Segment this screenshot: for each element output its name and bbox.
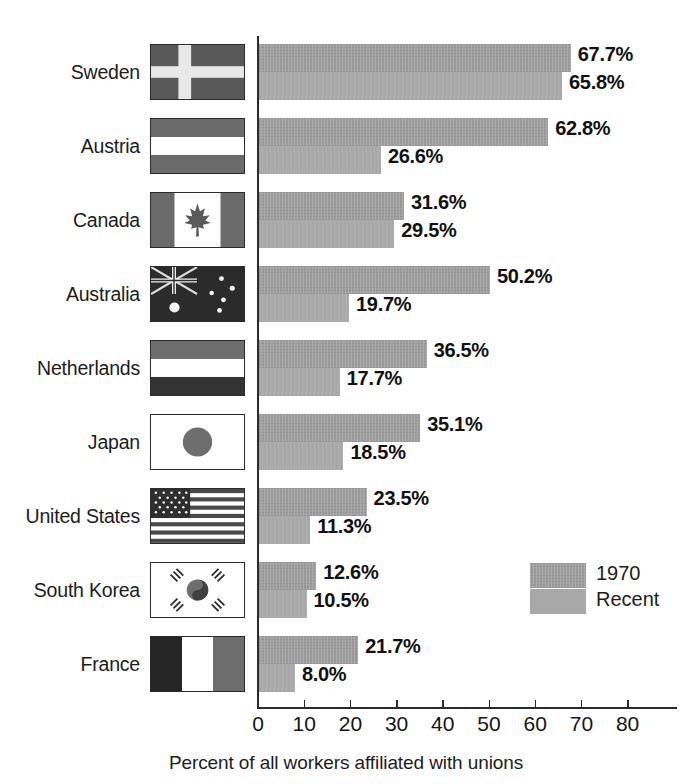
axis-tick-label: 60	[524, 712, 547, 736]
flag-japan-icon	[150, 414, 245, 470]
axis-tick	[442, 700, 444, 708]
axis-tick-label: 70	[570, 712, 593, 736]
bar-pair: 23.5%11.3%	[258, 488, 688, 544]
flag-france-icon	[150, 636, 245, 692]
axis-tick-label: 0	[252, 712, 264, 736]
axis-tick	[304, 700, 306, 708]
axis-tick	[489, 700, 491, 708]
axis-tick	[258, 700, 260, 708]
chart-row: France 21.7%8.0%	[0, 630, 692, 698]
bar-value-recent: 29.5%	[401, 219, 456, 242]
bar-pair: 62.8%26.6%	[258, 118, 688, 174]
bar-1970	[258, 562, 316, 590]
axis-tick-label: 10	[293, 712, 316, 736]
bar-recent	[258, 220, 394, 248]
country-label: United States	[0, 505, 140, 528]
bar-recent	[258, 516, 310, 544]
bar-recent	[258, 664, 295, 692]
x-axis-label: Percent of all workers affiliated with u…	[0, 752, 692, 774]
bar-value-recent: 11.3%	[317, 515, 371, 538]
chart-row: Australia 50.2%19.7%	[0, 260, 692, 328]
country-label: Australia	[0, 283, 140, 306]
chart-row: Japan 35.1%18.5%	[0, 408, 692, 476]
axis-tick-label: 50	[477, 712, 500, 736]
legend-label: 1970	[596, 562, 641, 585]
bar-1970	[258, 44, 571, 72]
bar-pair: 50.2%19.7%	[258, 266, 688, 322]
axis-tick	[396, 700, 398, 708]
bar-value-recent: 18.5%	[350, 441, 405, 464]
bar-value-recent: 65.8%	[569, 71, 624, 94]
chart-row: South Korea 12.6%10.5%	[0, 556, 692, 624]
bar-value-recent: 17.7%	[347, 367, 402, 390]
bar-recent	[258, 146, 381, 174]
bar-1970	[258, 192, 404, 220]
flag-netherlands-icon	[150, 340, 245, 396]
country-label: South Korea	[0, 579, 140, 602]
bar-recent	[258, 72, 562, 100]
axis-horizontal-line	[257, 707, 677, 709]
bar-recent	[258, 368, 340, 396]
bar-value-1970: 31.6%	[411, 191, 466, 214]
bar-value-1970: 36.5%	[434, 339, 489, 362]
bar-value-1970: 21.7%	[365, 635, 420, 658]
bar-value-1970: 62.8%	[555, 117, 610, 140]
bar-1970	[258, 414, 420, 442]
bar-recent	[258, 590, 307, 618]
axis-tick	[350, 700, 352, 708]
bar-value-recent: 19.7%	[356, 293, 411, 316]
bar-1970	[258, 118, 548, 146]
chart-row: Netherlands 36.5%17.7%	[0, 334, 692, 402]
bar-1970	[258, 636, 358, 664]
legend-swatch	[530, 563, 586, 588]
flag-united-states-icon	[150, 488, 245, 544]
flag-austria-icon	[150, 118, 245, 174]
flag-australia-icon	[150, 266, 245, 322]
bar-value-recent: 26.6%	[388, 145, 443, 168]
axis-tick	[581, 700, 583, 708]
bar-pair: 35.1%18.5%	[258, 414, 688, 470]
bar-value-1970: 50.2%	[497, 265, 552, 288]
union-membership-bar-chart: Sweden 67.7%65.8%Austria 62.8%26.6%Canad…	[0, 0, 692, 784]
chart-row: Austria 62.8%26.6%	[0, 112, 692, 180]
axis-tick	[535, 700, 537, 708]
legend-label: Recent	[596, 588, 659, 611]
axis-tick-label: 20	[339, 712, 362, 736]
bar-1970	[258, 488, 367, 516]
bar-pair: 36.5%17.7%	[258, 340, 688, 396]
country-label: Canada	[0, 209, 140, 232]
chart-row: Canada 31.6%29.5%	[0, 186, 692, 254]
bar-recent	[258, 294, 349, 322]
bar-value-1970: 35.1%	[427, 413, 482, 436]
bar-value-1970: 12.6%	[323, 561, 378, 584]
bar-value-1970: 23.5%	[374, 487, 429, 510]
bar-recent	[258, 442, 343, 470]
country-label: Sweden	[0, 61, 140, 84]
country-label: France	[0, 653, 140, 676]
bar-1970	[258, 340, 427, 368]
flag-south-korea-icon	[150, 562, 245, 618]
bar-1970	[258, 266, 490, 294]
axis-tick-label: 80	[616, 712, 639, 736]
axis-tick-label: 40	[431, 712, 454, 736]
chart-row: Sweden 67.7%65.8%	[0, 38, 692, 106]
chart-row: United States	[0, 482, 692, 550]
legend-swatch	[530, 589, 586, 614]
axis-tick	[627, 700, 629, 708]
country-label: Austria	[0, 135, 140, 158]
country-label: Netherlands	[0, 357, 140, 380]
flag-canada-icon	[150, 192, 245, 248]
bar-pair: 67.7%65.8%	[258, 44, 688, 100]
bar-value-recent: 8.0%	[302, 663, 346, 686]
flag-sweden-icon	[150, 44, 245, 100]
bar-pair: 21.7%8.0%	[258, 636, 688, 692]
bar-value-recent: 10.5%	[314, 589, 369, 612]
bar-pair: 31.6%29.5%	[258, 192, 688, 248]
country-label: Japan	[0, 431, 140, 454]
bar-value-1970: 67.7%	[578, 43, 633, 66]
axis-tick-label: 30	[385, 712, 408, 736]
